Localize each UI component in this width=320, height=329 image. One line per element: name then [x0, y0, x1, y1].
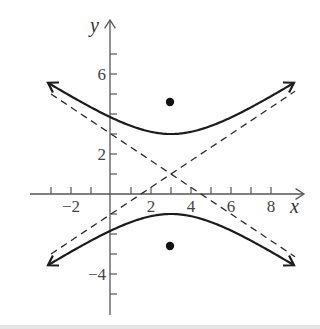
tick-labels: −2246862−4 [62, 65, 275, 284]
x-tick-label: 4 [187, 197, 196, 216]
bottom-band [0, 325, 320, 329]
asymptote-2 [51, 94, 295, 257]
hyperbola-upper-branch [48, 83, 294, 134]
hyperbola-graph: −2246862−4 x y [0, 0, 320, 329]
x-tick-label: 2 [147, 197, 156, 216]
asymptote-1 [51, 91, 295, 254]
hyperbola-lower-branch [48, 214, 294, 265]
y-axis-label: y [88, 14, 99, 37]
focus-upper-dot [166, 98, 174, 106]
asymptotes [51, 91, 295, 256]
y-tick-label: 2 [98, 145, 107, 164]
foci-points [166, 98, 174, 250]
x-tick-label: 6 [227, 197, 236, 216]
x-axis-label: x [289, 195, 299, 217]
axes [30, 20, 304, 315]
x-tick-label: −2 [62, 197, 80, 216]
x-tick-label: 8 [267, 197, 276, 216]
axis-ticks [51, 54, 271, 294]
focus-lower-dot [166, 242, 174, 250]
y-tick-label: 6 [98, 65, 107, 84]
y-tick-label: −4 [88, 265, 107, 284]
